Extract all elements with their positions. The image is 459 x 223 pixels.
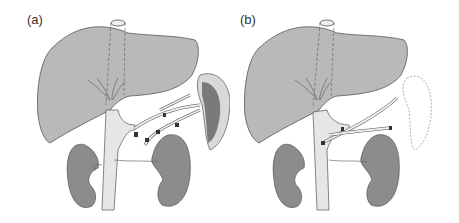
right-kidney — [273, 144, 304, 207]
spleen-outline-removed — [403, 76, 431, 150]
right-kidney — [67, 144, 98, 207]
left-kidney — [361, 135, 400, 207]
left-kidney — [152, 135, 191, 207]
panel-b: (b) — [229, 0, 459, 223]
anatomy-diagram-a — [0, 0, 230, 223]
ivc — [102, 110, 135, 210]
ivc-top — [111, 20, 125, 26]
panel-a: (a) — [0, 0, 230, 223]
anatomy-diagram-b — [229, 0, 459, 223]
